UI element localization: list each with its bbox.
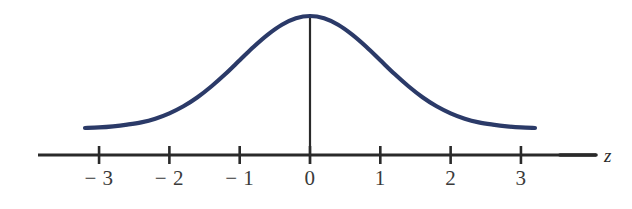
tick-label-pos2: 2: [421, 168, 481, 189]
tick-label-pos3: 3: [491, 168, 551, 189]
tick-label-zero: 0: [280, 168, 340, 189]
tick-label-neg3: − 3: [69, 168, 129, 189]
normal-distribution-figure: − 3 − 2 − 1 0 1 2 3 z: [0, 0, 632, 209]
tick-label-neg1: − 1: [210, 168, 270, 189]
tick-label-neg2: − 2: [139, 168, 199, 189]
axis-variable-label: z: [604, 146, 611, 165]
tick-label-pos1: 1: [350, 168, 410, 189]
